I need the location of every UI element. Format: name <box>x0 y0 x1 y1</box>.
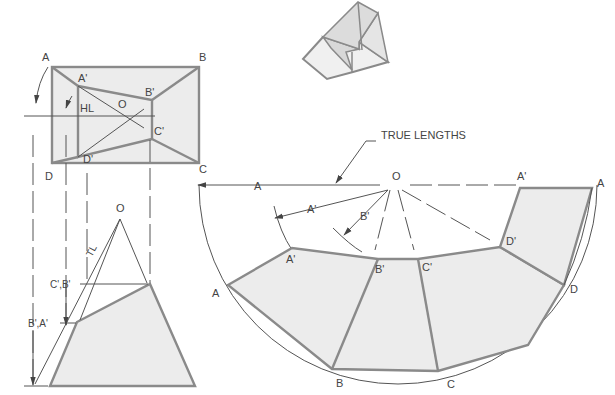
rotation-arrow-a <box>36 67 48 103</box>
tl-label-b-prime: B' <box>360 210 369 222</box>
label-a: A <box>42 51 50 63</box>
label-a-prime: A' <box>78 72 87 84</box>
level-label-c-b: C',B' <box>50 279 71 290</box>
arc-a-prime <box>274 206 292 250</box>
dev-label-b-prime: B' <box>375 263 384 275</box>
label-c: C <box>199 163 207 175</box>
dev-label-d-prime: D' <box>506 235 516 247</box>
top-view: A B C D A' B' C' D' O HL <box>24 51 207 182</box>
dev-label-a: A <box>212 287 220 299</box>
dev-label-a-end: A <box>597 177 605 189</box>
front-view-frustum <box>50 284 195 386</box>
label-b-prime: B' <box>145 86 154 98</box>
label-hl: HL <box>80 102 94 114</box>
front-apex-label: O <box>116 202 125 214</box>
technical-drawing: A B C D A' B' C' D' O HL O TL C',B' B',A… <box>0 0 615 395</box>
dev-label-b: B <box>336 377 343 389</box>
tl-label-a-prime-end: A' <box>517 170 526 182</box>
dev-label-a-prime: A' <box>286 253 295 265</box>
pictorial-view <box>303 2 388 79</box>
true-lengths-callout: TRUE LENGTHS <box>381 129 466 141</box>
development-view: TRUE LENGTHS O A A' B' A' A B C D A A' B… <box>198 129 605 390</box>
label-d: D <box>45 170 53 182</box>
dev-label-d: D <box>570 283 578 295</box>
label-d-prime: D' <box>83 153 93 165</box>
dev-apex-label: O <box>392 170 401 182</box>
level-label-b-a: B',A' <box>28 318 48 329</box>
tl-label: TL <box>84 242 99 258</box>
callout-leader <box>336 141 376 183</box>
label-o: O <box>118 98 127 110</box>
tl-label-a-prime: A' <box>307 203 316 215</box>
front-view: O TL C',B' B',A' <box>24 202 195 386</box>
label-c-prime: C' <box>154 125 164 137</box>
tl-label-a: A <box>254 180 262 192</box>
development-pattern <box>228 247 564 371</box>
dev-label-c-prime: C' <box>422 261 432 273</box>
dev-label-c: C <box>447 378 455 390</box>
label-b: B <box>199 51 206 63</box>
